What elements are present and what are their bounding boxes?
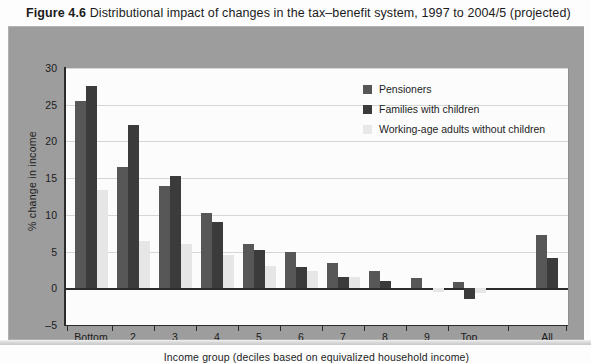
figure-number: Figure 4.6 [26,6,86,20]
bar [380,281,391,288]
legend-item-families-with-children: Families with children [363,101,545,117]
gridline [65,178,568,179]
legend-item-working-age-adults: Working-age adults without children [363,121,545,137]
bar [327,263,338,289]
bar [201,213,212,289]
bar [536,235,547,288]
bar [453,282,464,288]
x-tick-mark [196,325,197,331]
y-tick-label: 20 [11,135,57,147]
bar [75,101,86,288]
bar [464,288,475,299]
legend-item-pensioners: Pensioners [363,81,545,97]
y-tick-label: 10 [11,209,57,221]
bar [265,266,276,288]
bar [475,288,486,292]
x-tick-mark [154,325,155,331]
figure-caption: Figure 4.6 Distributional impact of chan… [26,6,578,20]
x-tick-mark [238,325,239,331]
bar [285,252,296,289]
bar [128,125,139,288]
y-tick-label: 0 [11,282,57,294]
chart-legend: Pensioners Families with children Workin… [363,81,545,141]
legend-label: Families with children [379,103,479,115]
bar [411,278,422,288]
gridline [65,68,568,69]
bar [223,255,234,289]
zero-line [65,288,568,290]
y-tick-label: 5 [11,246,57,258]
bar [139,241,150,289]
x-axis-line [65,325,568,327]
bar [97,190,108,288]
x-tick-mark [364,325,365,331]
page-edge [0,340,591,345]
y-tick-label: 30 [11,62,57,74]
gridline [65,215,568,216]
bar [433,288,444,292]
x-tick-mark [67,325,68,331]
bar [254,250,265,288]
bar [86,86,97,288]
legend-swatch-icon [363,85,372,94]
x-tick-mark [280,325,281,331]
chart-plate: % change in income –5051015202530 Bottom… [8,26,584,341]
x-tick-mark [406,325,407,331]
bar [117,167,128,288]
bar [243,244,254,289]
legend-label: Working-age adults without children [379,123,545,135]
bar [307,271,318,288]
x-tick-mark [508,325,509,331]
x-tick-mark [566,325,567,331]
bar [369,271,380,288]
x-axis-title: Income group (deciles based on equivaliz… [65,351,568,363]
legend-label: Pensioners [379,83,432,95]
y-axis-line [64,67,66,326]
y-tick-label: 25 [11,99,57,111]
x-tick-mark [448,325,449,331]
x-tick-mark [112,325,113,331]
y-tick-label: –5 [11,319,57,331]
bar [338,277,349,289]
bar [349,277,360,288]
bar [212,222,223,288]
legend-swatch-icon [363,125,372,134]
bar [547,258,558,288]
bar [159,186,170,289]
y-tick-label: 15 [11,172,57,184]
legend-swatch-icon [363,105,372,114]
x-tick-mark [322,325,323,331]
figure-caption-text: Distributional impact of changes in the … [90,6,571,20]
gridline [65,141,568,142]
bar [181,244,192,288]
bar [296,267,307,288]
bar [170,176,181,288]
